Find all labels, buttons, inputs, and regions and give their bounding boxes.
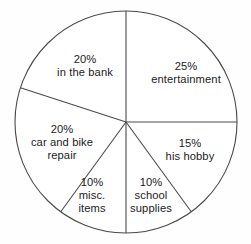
pie-chart-graphic [0,0,251,244]
pie-chart: 25% entertainment 15% his hobby 10% scho… [0,0,251,244]
